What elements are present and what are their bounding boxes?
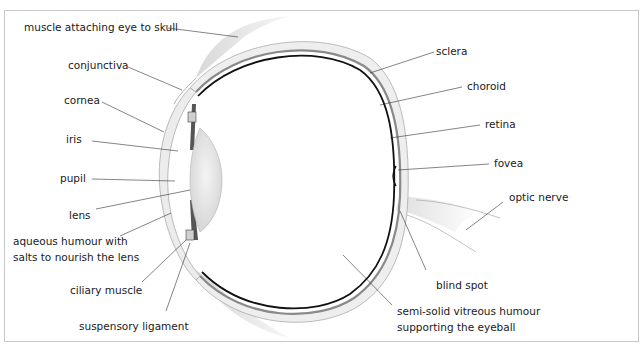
optic-nerve-shape <box>396 196 480 232</box>
label-suspensory-ligament: suspensory ligament <box>79 319 189 333</box>
ciliary-muscle-lower <box>186 230 194 240</box>
lens-shape <box>190 128 222 232</box>
ciliary-muscle-upper <box>188 112 196 122</box>
label-vitreous-humour: semi-solid vitreous humour supporting th… <box>397 303 540 335</box>
retina-shape <box>198 56 394 309</box>
label-blind-spot: blind spot <box>436 278 488 292</box>
label-optic-nerve: optic nerve <box>509 190 568 204</box>
label-muscle: muscle attaching eye to skull <box>24 20 178 34</box>
leader-lines <box>92 28 503 311</box>
label-aqueous-humour: aqueous humour with salts to nourish the… <box>13 233 139 265</box>
label-iris: iris <box>66 132 82 146</box>
label-pupil: pupil <box>60 171 86 185</box>
label-ciliary-muscle: ciliary muscle <box>70 283 142 297</box>
label-retina: retina <box>485 117 516 131</box>
label-conjunctiva: conjunctiva <box>68 58 129 72</box>
label-cornea: cornea <box>64 93 100 107</box>
sclera-shape <box>190 42 408 323</box>
label-choroid: choroid <box>467 79 506 93</box>
label-sclera: sclera <box>436 44 467 58</box>
label-lens: lens <box>69 208 91 222</box>
label-fovea: fovea <box>494 156 523 170</box>
